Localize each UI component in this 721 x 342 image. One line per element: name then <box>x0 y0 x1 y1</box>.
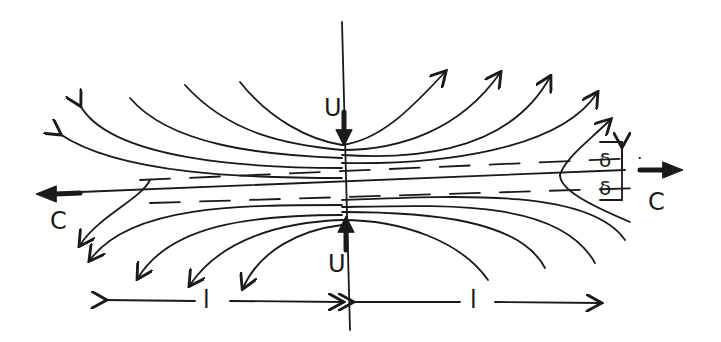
center-line <box>80 170 625 192</box>
label-c-left: C <box>50 207 67 235</box>
label-c-right: C <box>648 188 665 216</box>
label-l-right: l <box>470 286 477 314</box>
label-l-left: l <box>203 286 210 314</box>
label-delta-upper: δ <box>599 148 611 172</box>
label-u-bottom: U <box>328 250 346 278</box>
label-u-top: U <box>324 94 342 122</box>
c-left-arrow <box>55 193 80 194</box>
label-delta-lower: δ <box>599 176 611 200</box>
flow-diagram <box>0 0 721 342</box>
vertical-axis <box>342 22 350 330</box>
